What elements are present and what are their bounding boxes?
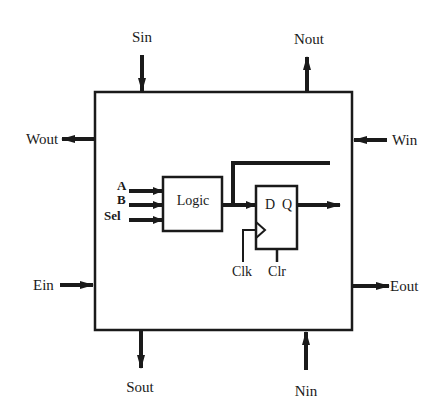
- input-sel-label: Sel: [104, 208, 121, 223]
- input-a-label: A: [117, 178, 127, 193]
- eout-label: Eout: [390, 278, 419, 294]
- clr-label: Clr: [268, 264, 286, 279]
- flip-flop-block: [256, 186, 297, 249]
- clk-label: Clk: [232, 264, 252, 279]
- cell-diagram: Sin Nout Wout Win Ein Eout Sout Nin A B …: [0, 0, 444, 416]
- sin-label: Sin: [132, 29, 153, 45]
- nin-label: Nin: [295, 383, 318, 399]
- clk-wire: [243, 230, 256, 262]
- ein-label: Ein: [33, 277, 54, 293]
- wout-label: Wout: [26, 131, 59, 147]
- nout-label: Nout: [294, 31, 325, 47]
- win-label: Win: [392, 132, 418, 148]
- sout-label: Sout: [126, 379, 154, 395]
- ff-d-label: D: [265, 197, 275, 212]
- input-b-label: B: [117, 192, 126, 207]
- logic-block-label: Logic: [177, 193, 210, 208]
- cell-boundary-box: [95, 92, 352, 330]
- ff-q-label: Q: [282, 197, 292, 212]
